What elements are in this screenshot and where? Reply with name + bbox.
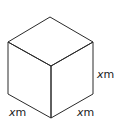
cube-top-face [8, 17, 93, 66]
cube [8, 17, 93, 118]
label-bottom-right-edge: xm [76, 106, 94, 119]
label-right-edge: xm [96, 68, 114, 81]
cube-diagram: xm xm xm [0, 0, 118, 124]
label-bottom-left-edge: xm [8, 106, 26, 119]
